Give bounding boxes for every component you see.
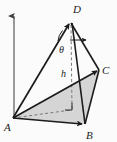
- geometry-figure-container: A B C D h θ: [0, 0, 117, 142]
- angle-label-theta: θ: [59, 44, 64, 55]
- vertex-label-D: D: [72, 3, 81, 15]
- vertex-label-B: B: [86, 129, 93, 141]
- height-label-h: h: [61, 68, 66, 79]
- tetrahedron-diagram: A B C D h θ: [0, 0, 117, 142]
- vertex-label-A: A: [3, 121, 11, 133]
- vertex-label-C: C: [102, 64, 110, 76]
